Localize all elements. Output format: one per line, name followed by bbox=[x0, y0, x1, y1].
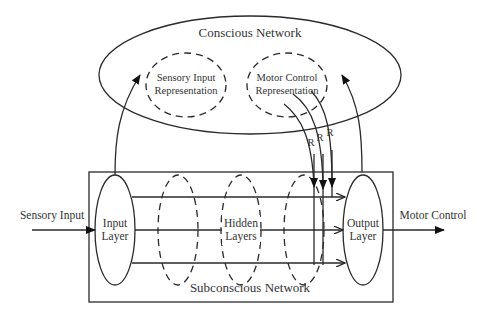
motor-control-label: Motor Control bbox=[400, 209, 467, 221]
recurrent-label-1: R bbox=[307, 137, 314, 148]
output-layer-line1: Output bbox=[347, 217, 380, 230]
conscious-network-label: Conscious Network bbox=[199, 25, 302, 40]
recurrent-label-2: R bbox=[316, 132, 323, 143]
sensory-input-label: Sensory Input bbox=[20, 209, 85, 222]
sensory-representation-line2: Representation bbox=[155, 85, 219, 96]
input-layer-line1: Input bbox=[103, 217, 128, 230]
input-to-conscious-arrow bbox=[115, 75, 140, 175]
subconscious-network-label: Subconscious Network bbox=[190, 280, 311, 295]
conscious-to-output-arrow bbox=[342, 75, 362, 172]
diagram-canvas: Conscious Network Sensory Input Represen… bbox=[0, 0, 487, 315]
recurrent-connection-1 bbox=[284, 104, 314, 265]
output-layer-line2: Layer bbox=[350, 230, 377, 243]
hidden-layers-line1: Hidden bbox=[224, 217, 258, 229]
recurrent-label-3: R bbox=[326, 127, 333, 138]
motor-representation-line1: Motor Control bbox=[257, 72, 318, 83]
motor-representation-line2: Representation bbox=[256, 85, 320, 96]
recurrent-connection-2 bbox=[293, 94, 323, 265]
hidden-layers-line2: Layers bbox=[225, 230, 257, 243]
sensory-representation-line1: Sensory Input bbox=[157, 72, 216, 83]
input-layer-line2: Layer bbox=[102, 230, 129, 243]
